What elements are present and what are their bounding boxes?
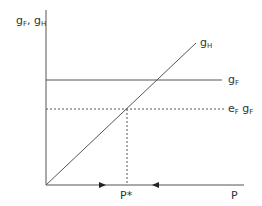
p-star-label: P* — [120, 190, 132, 201]
arrow-right-icon — [99, 182, 106, 188]
gH-line — [46, 43, 196, 185]
gF-label: gF — [228, 74, 239, 87]
gH-label: gH — [200, 37, 212, 50]
x-axis-label: P — [231, 190, 238, 201]
arrow-left-icon — [152, 182, 159, 188]
eF-gF-label: eF gF — [228, 103, 253, 116]
diagram-canvas — [0, 0, 262, 206]
y-axis-label: gF, gH — [16, 15, 46, 28]
